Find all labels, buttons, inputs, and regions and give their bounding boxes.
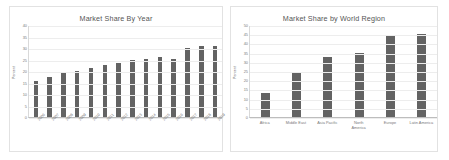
bar — [144, 59, 149, 117]
y-axis-ticks-left: 0510152025303540 — [17, 26, 28, 118]
x-tick-label: 2012 — [118, 121, 121, 124]
x-axis-labels-left: 2006200720082009201020112012201320142015… — [10, 118, 222, 125]
bar — [171, 59, 176, 117]
gridline — [29, 84, 222, 85]
charts-figure: Market Share By Year Percent 05101520253… — [0, 0, 449, 160]
y-tick-label: 40 — [23, 24, 27, 28]
y-axis-ticks-right: 05101520253035404550 — [238, 26, 249, 118]
gridline — [250, 35, 437, 36]
gridline — [29, 72, 222, 73]
y-tick-label: 15 — [244, 88, 248, 92]
y-tick-label: 10 — [244, 98, 248, 102]
market-share-by-world-region-panel: Market Share by World Region Percent 051… — [230, 6, 438, 152]
y-tick-label: 5 — [246, 107, 248, 111]
y-tick-label: 30 — [244, 61, 248, 65]
bar — [116, 63, 121, 118]
x-tick-label: 2006 — [35, 121, 38, 124]
bar — [261, 93, 270, 117]
y-axis-title-left: Percent — [10, 26, 17, 118]
x-tick-label: 2008 — [63, 121, 66, 124]
x-tick-label: 2014 — [146, 121, 149, 124]
y-tick-label: 20 — [23, 70, 27, 74]
gridline — [250, 44, 437, 45]
gridline — [250, 72, 437, 73]
y-axis-title-right: Percent — [231, 26, 238, 118]
gridline — [250, 81, 437, 82]
x-tick-label: 2011 — [104, 121, 107, 124]
gridline — [250, 63, 437, 64]
x-tick-label: Asia Pacific — [312, 121, 342, 131]
x-tick-label: 2010 — [90, 121, 93, 124]
y-tick-label: 15 — [23, 82, 27, 86]
gridline — [250, 26, 437, 27]
bar — [34, 81, 39, 117]
market-share-by-year-panel: Market Share By Year Percent 05101520253… — [9, 6, 223, 152]
y-tick-label: 5 — [25, 105, 27, 109]
x-tick-label: Middle East — [281, 121, 311, 131]
plot-wrap-right: Percent 05101520253035404550 — [231, 26, 437, 118]
page-title-right: Market Share by World Region — [231, 14, 437, 24]
x-tick-label: 2018 — [201, 121, 204, 124]
y-tick-label: 10 — [23, 93, 27, 97]
x-tick-label: Latin America — [406, 121, 436, 131]
x-axis-labels-right: AfricaMiddle EastAsia PacificNorth Ameri… — [231, 118, 437, 131]
x-tick-label: 2013 — [132, 121, 135, 124]
plot-area-left — [28, 26, 222, 118]
gridline — [29, 107, 222, 108]
gridline — [29, 61, 222, 62]
page-title-left: Market Share By Year — [10, 14, 222, 24]
x-tick-label: 2017 — [187, 121, 190, 124]
y-tick-label: 20 — [244, 79, 248, 83]
bar — [158, 57, 163, 117]
gridline — [250, 100, 437, 101]
y-tick-label: 30 — [23, 47, 27, 51]
gridline — [29, 38, 222, 39]
y-tick-label: 35 — [23, 36, 27, 40]
gridline — [29, 95, 222, 96]
bar — [292, 73, 301, 117]
x-tick-label: North America — [344, 121, 374, 131]
gridline — [29, 49, 222, 50]
gridline — [250, 54, 437, 55]
y-tick-label: 35 — [244, 52, 248, 56]
gridline — [250, 90, 437, 91]
bar — [75, 71, 80, 117]
x-tick-label: Africa — [250, 121, 280, 131]
x-tick-label: Europe — [375, 121, 405, 131]
x-axis-spacer-right — [231, 118, 249, 131]
x-tick-label: 2015 — [160, 121, 163, 124]
y-tick-label: 50 — [244, 24, 248, 28]
plot-wrap-left: Percent 0510152025303540 — [10, 26, 222, 118]
x-tick-label: 2016 — [173, 121, 176, 124]
x-tick-label: 2007 — [49, 121, 52, 124]
bar — [386, 35, 395, 117]
x-axis-spacer-left — [10, 118, 28, 125]
y-tick-label: 40 — [244, 42, 248, 46]
x-tick-label: 2019 — [215, 121, 218, 124]
bar — [89, 68, 94, 117]
bar — [417, 34, 426, 117]
y-tick-label: 25 — [23, 59, 27, 63]
gridline — [250, 109, 437, 110]
gridline — [29, 26, 222, 27]
bar — [130, 60, 135, 117]
y-tick-label: 25 — [244, 70, 248, 74]
plot-area-right — [249, 26, 437, 118]
x-tick-label: 2009 — [76, 121, 79, 124]
y-tick-label: 45 — [244, 33, 248, 37]
